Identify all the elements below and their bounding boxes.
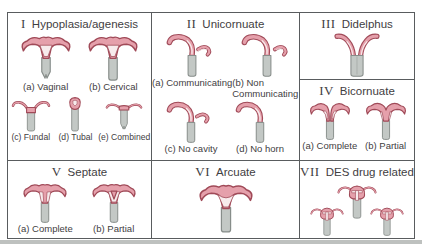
panel-title-text: Didelphus [342, 18, 393, 30]
column-didelphus-bicornuate: III Didelphus IV Bicornuate [300, 13, 414, 161]
panel-title: II Unicornuate [187, 16, 265, 32]
figure-label: (a) Complete [302, 141, 357, 152]
panel-title: I Hypoplasia/agenesis [21, 16, 138, 32]
figure-label: (d) Tubal [59, 133, 93, 143]
figure-block: (a) Communicating [152, 32, 232, 89]
panel-title-text: Bicornuate [340, 85, 395, 97]
uterus-didelphus-figure [315, 32, 399, 78]
panel-des-drug-related: VII DES drug related [300, 161, 414, 238]
panel-title: IV Bicornuate [319, 83, 395, 99]
figure-block: (e) Combined [98, 93, 150, 143]
uterus-unicornuate-no-horn-figure [230, 100, 290, 144]
uterus-bicornuate-partial-figure [360, 99, 412, 141]
panel-title: III Didelphus [321, 16, 393, 32]
uterus-vaginal-agenesis-figure [16, 32, 76, 82]
figure-block: (d) No horn [230, 100, 290, 155]
figure-block: (a) Complete [14, 180, 76, 235]
panel-title-text: DES drug related [326, 166, 414, 178]
panel-title-text: Hypoplasia/agenesis [32, 18, 138, 30]
figure-label: (c) Fundal [11, 133, 50, 143]
panel-numeral: IV [319, 83, 334, 99]
uterus-des-t-shaped-right-figure [365, 203, 409, 237]
figure-label: (b) Partial [93, 224, 134, 235]
panel-didelphus: III Didelphus [300, 13, 414, 80]
figure-label: (b) Cervical [89, 82, 138, 93]
figure-block: (a) Vaginal [16, 32, 76, 93]
figure-row: (c) No cavity (d) No horn [152, 100, 299, 155]
panel-title: VII DES drug related [300, 164, 414, 180]
figure-block: (a) Complete [302, 99, 357, 152]
panel-numeral: V [52, 164, 62, 180]
figure-label: (a) Vaginal [23, 82, 68, 93]
panel-title: V Septate [52, 164, 108, 180]
figure-label: (a) Communicating [152, 78, 232, 89]
figure-block: (b) Partial [360, 99, 412, 152]
figure-row: (a) Vaginal (b) Cervical [8, 32, 151, 93]
figure-label: (c) No cavity [165, 144, 218, 155]
panel-bicornuate: IV Bicornuate (a) Complete [300, 80, 414, 160]
panel-title-text: Arcuate [216, 166, 256, 178]
figure-block: (b) Non Communicating [232, 32, 300, 100]
panel-septate: V Septate (a) Complete [8, 161, 152, 238]
uterus-septate-partial-figure [83, 180, 145, 224]
scan-shadow-artifact [0, 240, 422, 244]
panel-hypoplasia-agenesis: I Hypoplasia/agenesis (a) Vaginal [8, 13, 152, 161]
uterus-septate-complete-figure [14, 180, 76, 224]
uterus-unicornuate-communicating-figure [160, 32, 224, 78]
figure-row: (a) Communicating (b) Non Communicating [152, 32, 299, 100]
mullerian-anomaly-classification-table: I Hypoplasia/agenesis (a) Vaginal [7, 12, 415, 239]
panel-title-text: Unicornuate [202, 18, 264, 30]
figure-block: (b) Partial [83, 180, 145, 235]
des-figure-group [300, 180, 414, 238]
uterus-combined-agenesis-figure [102, 93, 146, 133]
uterus-cervical-agenesis-figure [83, 32, 143, 82]
panel-numeral: III [321, 16, 336, 32]
classification-sheet: I Hypoplasia/agenesis (a) Vaginal [0, 0, 422, 245]
panel-title: VI Arcuate [195, 164, 255, 180]
panel-title-text: Septate [68, 166, 108, 178]
uterus-unicornuate-no-cavity-figure [161, 100, 221, 144]
figure-row: (a) Complete (b) Partial [300, 99, 414, 152]
uterus-arcuate-figure [180, 180, 272, 234]
figure-label: (b) Non Communicating [232, 78, 300, 100]
figure-row: (a) Complete (b) Partial [8, 180, 151, 235]
panel-numeral: II [187, 16, 197, 32]
figure-label: (a) Complete [18, 224, 73, 235]
figure-block: (b) Cervical [83, 32, 143, 93]
uterus-des-t-shaped-left-figure [305, 203, 349, 237]
panel-numeral: I [21, 16, 26, 32]
figure-block: (c) No cavity [161, 100, 221, 155]
figure-label: (e) Combined [98, 133, 150, 143]
uterus-fundal-agenesis-figure [9, 93, 53, 133]
figure-row: (c) Fundal (d) Tubal [8, 93, 151, 143]
uterus-bicornuate-complete-figure [304, 99, 356, 141]
uterus-tubal-agenesis-figure [53, 93, 97, 133]
figure-block: (d) Tubal [53, 93, 97, 143]
panel-numeral: VI [195, 164, 210, 180]
figure-block: (c) Fundal [9, 93, 53, 143]
figure-label: (d) No horn [236, 144, 284, 155]
panel-numeral: VII [300, 164, 320, 180]
panel-arcuate: VI Arcuate [152, 161, 300, 238]
uterus-unicornuate-non-communicating-figure [235, 32, 299, 78]
panel-unicornuate: II Unicornuate (a) Communicating [152, 13, 300, 161]
figure-label: (b) Partial [365, 141, 406, 152]
